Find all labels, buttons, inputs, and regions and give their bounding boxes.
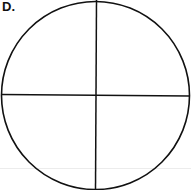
panel-label: D. (2, 0, 15, 14)
horizontal-divider (1, 95, 190, 97)
quartered-circle-diagram (0, 0, 191, 190)
